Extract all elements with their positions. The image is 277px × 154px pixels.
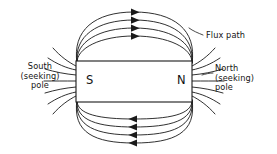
flux-arrowheads-bottom [129,115,138,146]
north-pole-label: North (seeking) pole [215,64,254,93]
south-pole-letter: S [86,73,93,87]
north-pole-letter: N [177,73,186,87]
north-pole-label-line3: pole [215,83,254,93]
south-pole-label-line3: pole [12,81,68,91]
magnet-flux-diagram: S N South (seeking) pole North (seeking)… [0,0,277,154]
flux-path-leader [189,28,203,35]
magnet-body [76,61,192,102]
south-pole-label: South (seeking) pole [12,62,68,91]
flux-path-label: Flux path [206,31,245,41]
flux-arrowheads-top [131,9,140,40]
